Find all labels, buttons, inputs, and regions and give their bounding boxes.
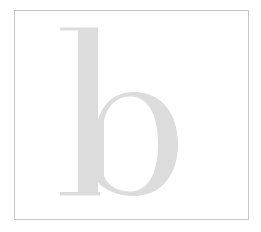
letter-b-glyph	[0, 0, 261, 232]
